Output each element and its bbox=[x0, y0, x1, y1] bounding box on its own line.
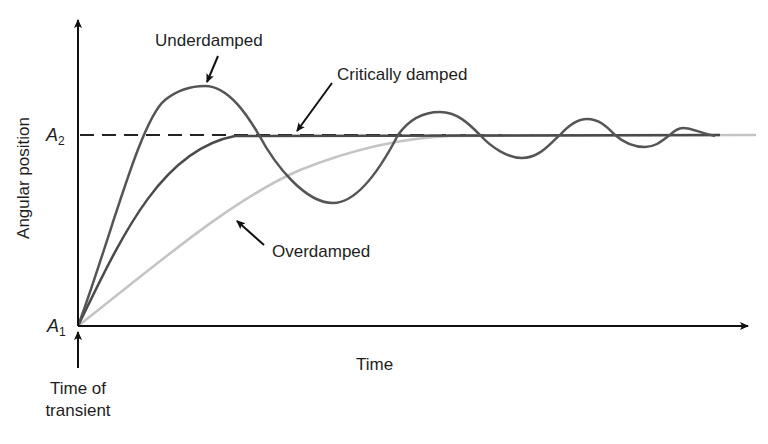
y-axis-label: Angular position bbox=[14, 117, 33, 239]
transient-label-line1: Time of bbox=[50, 379, 106, 398]
critically-damped-curve bbox=[78, 135, 720, 326]
a2-level-label: A2 bbox=[45, 125, 65, 148]
overdamped-arrow-icon bbox=[237, 221, 264, 245]
underdamped-label: Underdamped bbox=[155, 31, 263, 50]
underdamped-curve bbox=[78, 86, 715, 326]
a1-level-label: A1 bbox=[46, 316, 66, 339]
damping-diagram: Underdamped Critically damped Overdamped… bbox=[0, 0, 768, 444]
overdamped-label: Overdamped bbox=[272, 242, 370, 261]
critically-damped-label: Critically damped bbox=[337, 65, 467, 84]
transient-label-line2: transient bbox=[45, 401, 110, 420]
x-axis-label: Time bbox=[356, 355, 393, 374]
critically-damped-arrow-icon bbox=[297, 83, 332, 131]
underdamped-arrow-icon bbox=[207, 56, 218, 82]
